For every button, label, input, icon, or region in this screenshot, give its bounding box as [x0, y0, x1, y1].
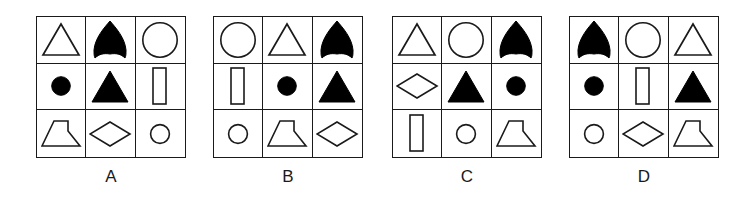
- matrix-cell-r1c2: [619, 17, 668, 64]
- bullet-filled-icon: [575, 20, 613, 60]
- answer-options-figure: ABCD: [0, 0, 751, 205]
- circle-outline-icon: [141, 21, 179, 59]
- matrix-cell-r3c3: [136, 110, 185, 157]
- triangle-filled-icon: [317, 68, 357, 105]
- matrix-cell-r3c2: [619, 110, 668, 157]
- circle-outline-small-icon: [227, 123, 249, 145]
- matrix-cell-r2c2: [442, 64, 491, 111]
- matrix-cell-r1c3: [669, 17, 718, 64]
- shape-matrix-grid: [569, 16, 719, 158]
- triangle-outline-icon: [673, 21, 713, 58]
- matrix-cell-r1c1: [570, 17, 619, 64]
- shape-matrix-grid: [36, 16, 186, 158]
- bullet-filled-icon: [497, 20, 535, 60]
- circle-outline-small-icon: [583, 123, 605, 145]
- matrix-cell-r2c2: [86, 64, 135, 111]
- matrix-cell-r2c3: [669, 64, 718, 111]
- circle-outline-small-icon: [149, 123, 171, 145]
- matrix-cell-r3c3: [492, 110, 541, 157]
- matrix-cell-r1c3: [313, 17, 362, 64]
- circle-filled-icon: [277, 76, 297, 96]
- matrix-cell-r2c2: [263, 64, 312, 111]
- matrix-cell-r1c3: [136, 17, 185, 64]
- matrix-cell-r2c1: [570, 64, 619, 111]
- matrix-cell-r3c1: [393, 110, 442, 157]
- circle-outline-icon: [219, 21, 257, 59]
- bullet-filled-icon: [91, 20, 129, 60]
- matrix-cell-r2c1: [393, 64, 442, 111]
- funnel-outline-icon: [496, 119, 537, 148]
- matrix-cell-r3c3: [669, 110, 718, 157]
- matrix-cell-r3c2: [86, 110, 135, 157]
- matrix-cell-r1c1: [393, 17, 442, 64]
- matrix-cell-r1c2: [86, 17, 135, 64]
- triangle-filled-icon: [90, 68, 130, 105]
- triangle-outline-icon: [397, 21, 437, 58]
- matrix-cell-r1c1: [214, 17, 263, 64]
- matrix-cell-r3c2: [263, 110, 312, 157]
- matrix-cell-r3c1: [570, 110, 619, 157]
- circle-filled-icon: [506, 76, 526, 96]
- rectangle-outline-icon: [409, 114, 425, 153]
- matrix-cell-r1c1: [37, 17, 86, 64]
- matrix-cell-r2c2: [619, 64, 668, 111]
- funnel-outline-icon: [673, 119, 714, 148]
- option-panel-a[interactable]: [36, 16, 186, 158]
- triangle-filled-icon: [673, 68, 713, 105]
- matrix-cell-r2c3: [492, 64, 541, 111]
- rectangle-outline-icon: [230, 67, 246, 106]
- matrix-cell-r3c2: [442, 110, 491, 157]
- matrix-cell-r2c1: [214, 64, 263, 111]
- option-label-a: A: [36, 167, 186, 187]
- shape-matrix-grid: [213, 16, 363, 158]
- option-panel-c[interactable]: [392, 16, 542, 158]
- circle-outline-icon: [624, 21, 662, 59]
- option-panel-b[interactable]: [213, 16, 363, 158]
- matrix-cell-r2c1: [37, 64, 86, 111]
- diamond-outline-icon: [622, 120, 665, 148]
- funnel-outline-icon: [267, 119, 308, 148]
- circle-filled-icon: [51, 76, 71, 96]
- circle-outline-small-icon: [455, 123, 477, 145]
- triangle-outline-icon: [267, 21, 307, 58]
- diamond-outline-icon: [396, 72, 439, 100]
- option-panel-d[interactable]: [569, 16, 719, 158]
- diamond-outline-icon: [89, 120, 132, 148]
- matrix-cell-r2c3: [313, 64, 362, 111]
- circle-outline-icon: [447, 21, 485, 59]
- matrix-cell-r3c1: [214, 110, 263, 157]
- funnel-outline-icon: [41, 119, 82, 148]
- option-label-b: B: [213, 167, 363, 187]
- matrix-cell-r3c3: [313, 110, 362, 157]
- matrix-cell-r2c3: [136, 64, 185, 111]
- triangle-filled-icon: [446, 68, 486, 105]
- matrix-cell-r1c2: [442, 17, 491, 64]
- option-label-d: D: [569, 167, 719, 187]
- shape-matrix-grid: [392, 16, 542, 158]
- matrix-cell-r1c3: [492, 17, 541, 64]
- bullet-filled-icon: [318, 20, 356, 60]
- rectangle-outline-icon: [635, 67, 651, 106]
- triangle-outline-icon: [41, 21, 81, 58]
- circle-filled-icon: [584, 76, 604, 96]
- matrix-cell-r1c2: [263, 17, 312, 64]
- option-label-c: C: [392, 167, 542, 187]
- diamond-outline-icon: [316, 120, 359, 148]
- matrix-cell-r3c1: [37, 110, 86, 157]
- rectangle-outline-icon: [152, 67, 168, 106]
